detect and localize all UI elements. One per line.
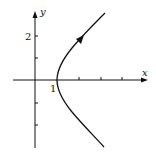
y-axis-label: y (39, 6, 46, 17)
x-axis-arrow-icon (141, 78, 148, 83)
x-axis (13, 77, 148, 83)
x-tick-label-1: 1 (50, 83, 56, 94)
x-axis-label: x (142, 67, 148, 78)
y-axis-arrow-icon (33, 11, 38, 18)
y-tick-label-2: 2 (25, 31, 31, 42)
hyperbola-diagram: y x 2 1 (0, 0, 156, 156)
